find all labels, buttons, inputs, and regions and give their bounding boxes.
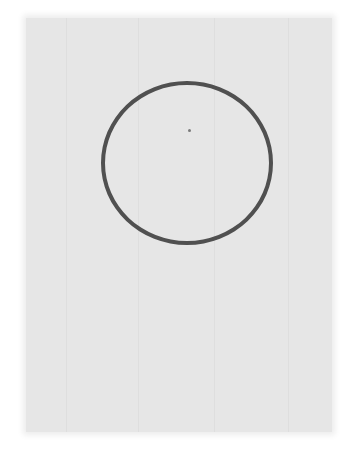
drawn-circle <box>101 81 273 245</box>
paper-texture-line <box>66 18 67 432</box>
paper-texture-line <box>288 18 289 432</box>
center-dot <box>188 129 191 132</box>
